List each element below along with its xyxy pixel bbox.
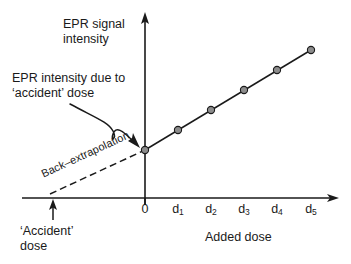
x-axis	[22, 194, 339, 202]
data-point-marker	[141, 146, 148, 153]
data-point-marker	[207, 106, 214, 113]
x-tick-label: 0	[142, 202, 149, 216]
x-tick-label: d5	[305, 202, 317, 216]
regression-line	[145, 50, 311, 150]
intercept-annotation-text: EPR intensity due to ‘accident’ dose	[12, 71, 125, 101]
accident-dose-arrow	[49, 199, 57, 220]
epr-back-extrapolation-chart: EPR signal intensity EPR intensity due t…	[0, 0, 351, 264]
x-axis-title: Added dose	[205, 230, 272, 245]
data-point-marker	[307, 46, 314, 53]
data-point-marker	[240, 86, 247, 93]
y-axis-title: EPR signal intensity	[63, 17, 125, 47]
x-tick-label: d1	[172, 202, 184, 216]
data-point-marker	[174, 126, 181, 133]
x-tick-label: d2	[205, 202, 217, 216]
y-axis	[141, 12, 149, 205]
x-tick-label: d4	[271, 202, 283, 216]
x-tick-label: d3	[238, 202, 250, 216]
accident-dose-label: ‘Accident’ dose	[20, 224, 74, 254]
data-point-marker	[273, 66, 280, 73]
